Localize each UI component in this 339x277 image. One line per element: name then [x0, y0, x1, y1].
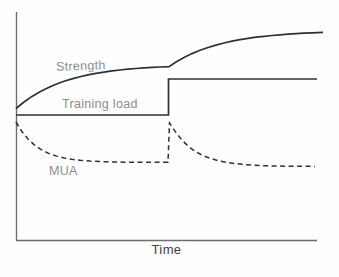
mua-series-label: MUA [49, 164, 78, 178]
x-axis-label: Time [16, 242, 317, 257]
mua-curve [16, 122, 315, 166]
strength-training-chart: Strength Training load MUA Time [0, 0, 339, 277]
strength-series-label: Strength [56, 58, 106, 74]
chart-canvas [0, 0, 339, 277]
training-load-series-label: Training load [62, 97, 138, 111]
